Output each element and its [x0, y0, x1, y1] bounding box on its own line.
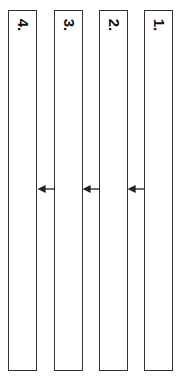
- arrow-head-icon: [129, 186, 135, 192]
- arrow-head-icon: [84, 186, 90, 192]
- arrow-head-icon: [39, 186, 45, 192]
- connector-arrows: [0, 0, 178, 378]
